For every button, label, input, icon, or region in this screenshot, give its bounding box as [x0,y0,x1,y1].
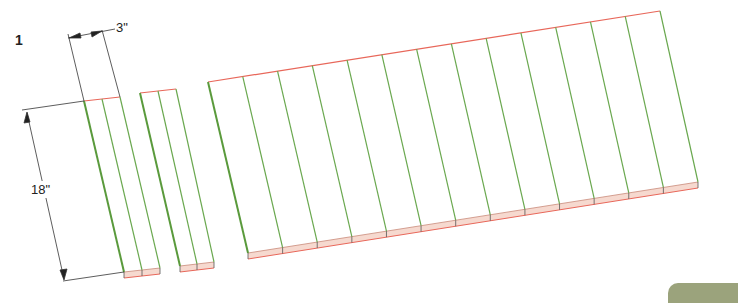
page-tab[interactable] [668,283,738,303]
board-pair-2 [140,89,214,272]
length-dimension-label: 18" [31,181,50,198]
board-pair-1 [84,97,160,278]
step-number: 1 [15,32,23,48]
width-dimension-label: 3" [116,20,128,35]
board-panel [208,11,698,259]
dimension-width [68,29,120,101]
